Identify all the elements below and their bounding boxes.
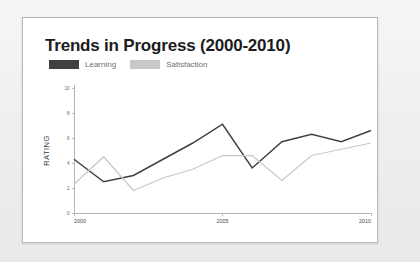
chart-axes — [72, 85, 372, 216]
chart-plot-area: 0246810200020052010RATING — [23, 18, 379, 244]
y-tick-label: 8 — [67, 111, 70, 116]
y-tick-label: 6 — [67, 136, 70, 141]
line-chart-svg: 0246810200020052010RATING — [23, 18, 379, 244]
chart-series — [74, 124, 371, 190]
chart-axis-labels: 0246810200020052010RATING — [42, 86, 371, 224]
y-tick-label: 4 — [67, 161, 70, 166]
y-tick-label: 10 — [64, 86, 70, 91]
x-tick-label: 2010 — [359, 218, 371, 224]
slide-card: Trends in Progress (2000-2010) Learning … — [22, 17, 378, 243]
y-tick-label: 0 — [67, 211, 70, 216]
axis-lines — [74, 85, 371, 213]
x-tick-label: 2005 — [217, 218, 229, 224]
y-tick-label: 2 — [67, 186, 70, 191]
y-axis-title: RATING — [42, 135, 51, 166]
series-line-satisfaction — [74, 143, 371, 191]
x-tick-label: 2000 — [74, 218, 86, 224]
